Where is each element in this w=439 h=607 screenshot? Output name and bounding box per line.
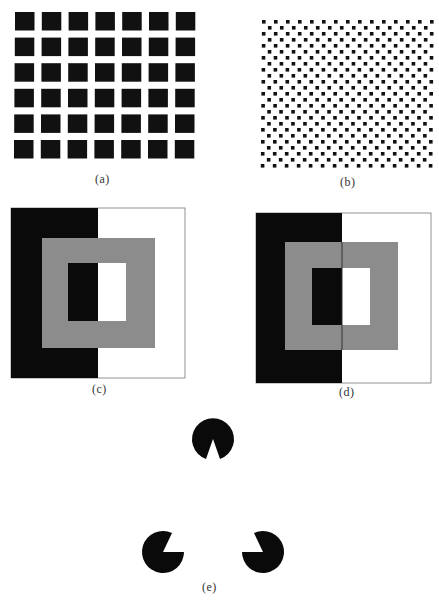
grid-square xyxy=(68,114,88,132)
grid-square xyxy=(121,140,141,159)
grid-square xyxy=(14,89,34,108)
grid-square xyxy=(175,63,195,81)
grid-square xyxy=(15,63,34,81)
grid-square xyxy=(95,89,115,108)
grid-square xyxy=(149,38,169,57)
grid-square xyxy=(15,12,35,31)
grid-square xyxy=(148,114,168,132)
panel-c-label: (c) xyxy=(92,382,107,397)
grid-square xyxy=(68,89,88,108)
grid-square xyxy=(41,89,61,108)
grid-square xyxy=(122,63,142,81)
grid-square xyxy=(122,12,142,31)
grid-square xyxy=(68,38,88,57)
panel-a-label: (a) xyxy=(95,172,110,187)
panel-a-grid xyxy=(14,12,195,159)
grid-square xyxy=(68,140,88,159)
grid-square xyxy=(68,63,88,81)
grid-square xyxy=(175,114,195,132)
panel-d-label: (d) xyxy=(339,385,355,400)
panel-e-label: (e) xyxy=(202,580,217,595)
panel-c-contrast xyxy=(11,208,185,378)
grid-square xyxy=(175,140,195,159)
grid-square xyxy=(41,140,61,159)
grid-square xyxy=(95,38,115,57)
panel-b-dots xyxy=(261,20,434,168)
grid-square xyxy=(94,140,114,159)
figure-canvas xyxy=(0,0,439,607)
panel-d-contrast-split xyxy=(256,213,431,383)
grid-square xyxy=(95,12,115,31)
panel-b-label: (b) xyxy=(340,175,356,190)
grid-square xyxy=(176,12,196,31)
grid-square xyxy=(95,63,115,81)
grid-square xyxy=(14,114,34,132)
grid-square xyxy=(15,38,35,57)
grid-square xyxy=(121,114,140,132)
grid-square xyxy=(122,38,142,57)
grid-square xyxy=(175,89,195,108)
panel-e-kanizsa xyxy=(142,418,284,573)
grid-square xyxy=(148,140,168,159)
grid-square xyxy=(149,12,169,31)
grid-square xyxy=(42,38,62,57)
grid-square xyxy=(95,114,115,132)
pacman-top xyxy=(192,418,234,459)
grid-square xyxy=(42,12,62,31)
pacman-bottom-right xyxy=(242,531,284,573)
grid-square xyxy=(69,12,89,31)
grid-square xyxy=(122,89,142,108)
grid-square xyxy=(149,63,169,81)
grid-square xyxy=(14,140,34,159)
grid-square xyxy=(41,114,61,132)
pacman-bottom-left xyxy=(142,531,184,573)
grid-square xyxy=(176,38,196,57)
grid-square xyxy=(41,63,61,81)
grid-square xyxy=(148,89,168,108)
